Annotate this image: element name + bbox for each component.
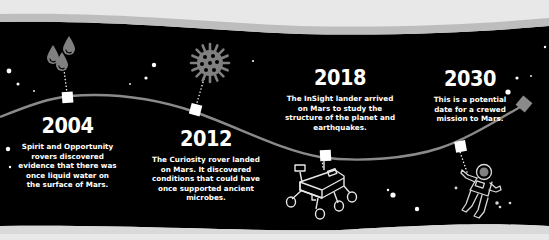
event-year: 2030 [426, 67, 514, 91]
microbe-icon [191, 44, 229, 82]
marker-2004[interactable] [62, 92, 74, 104]
event-description: The Curiosity rover landed on Mars. It d… [141, 155, 271, 203]
event-2030: 2030 This is a potential date for a crew… [420, 67, 520, 124]
event-2004: 2004 Spirit and Opportunity rovers disco… [5, 114, 130, 190]
event-description: Spirit and Opportunity rovers discovered… [5, 142, 130, 190]
marker-2018[interactable] [320, 150, 332, 162]
event-2012: 2012 The Curiosity rover landed on Mars.… [141, 127, 271, 203]
event-year: 2004 [13, 114, 123, 138]
event-2018: 2018 The InSight lander arrived on Mars … [272, 66, 408, 132]
event-year: 2018 [280, 66, 400, 90]
event-year: 2012 [149, 127, 263, 151]
marker-2030[interactable] [454, 140, 467, 153]
event-description: The InSight lander arrived on Mars to st… [272, 94, 408, 132]
event-description: This is a potential date for a crewed mi… [420, 95, 520, 124]
